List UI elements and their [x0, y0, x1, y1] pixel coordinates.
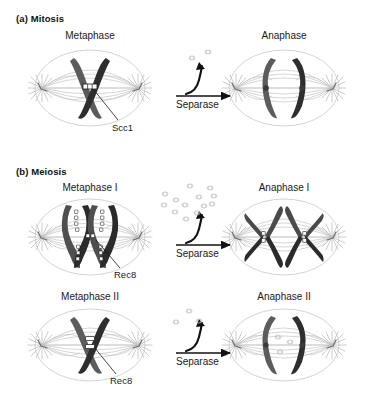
kinetochore-left: [263, 342, 268, 347]
kinetochore-right: [299, 342, 304, 347]
separase-label-meiosis-2: Separase: [176, 356, 219, 367]
section-heading-mitosis: (a) Mitosis: [16, 13, 64, 24]
panel-meiosis-anaphase-2: [222, 309, 346, 381]
panel-title-meiosis-metaphase-2: Metaphase II: [40, 291, 140, 302]
cohesin-fragments-meiosis-2: [173, 309, 202, 324]
cohesin-label-scc1: Scc1: [112, 122, 133, 133]
panel-title-meiosis-anaphase-1: Anaphase I: [234, 182, 334, 193]
cohesin-label-rec8-metaphase2: Rec8: [110, 375, 132, 386]
cohesin-fragments-meiosis-1: [161, 184, 217, 221]
diagram-canvas: [0, 0, 368, 405]
separase-label-meiosis-1: Separase: [176, 248, 219, 259]
panel-meiosis-anaphase-1: [222, 199, 346, 275]
separase-arrow-mitosis: [176, 50, 230, 96]
kinetochore-left: [263, 85, 269, 91]
panel-title-mitosis-metaphase: Metaphase: [40, 30, 140, 41]
panel-meiosis-metaphase-1: [28, 199, 152, 275]
separase-arrow-meiosis-2: [173, 309, 230, 353]
cohesin-fragments-mitosis: [189, 50, 211, 60]
panel-meiosis-metaphase-2: [28, 309, 152, 381]
panel-mitosis-anaphase: [222, 50, 346, 126]
separase-arrow-meiosis-1: [161, 184, 230, 245]
cohesin-scc1-band: [83, 84, 97, 89]
panel-mitosis-metaphase: [28, 50, 152, 126]
kinetochore-right: [299, 85, 305, 91]
section-heading-meiosis: (b) Meiosis: [16, 166, 67, 177]
panel-title-mitosis-anaphase: Anaphase: [234, 30, 334, 41]
separase-label-mitosis: Separase: [176, 99, 219, 110]
cohesin-fragments-anaphase2-interior: [275, 335, 293, 354]
figure-root: (a) Mitosis (b) Meiosis Metaphase Anapha…: [0, 0, 368, 405]
cohesin-label-rec8-metaphase1: Rec8: [114, 269, 136, 280]
panel-title-meiosis-anaphase-2: Anaphase II: [234, 291, 334, 302]
panel-title-meiosis-metaphase-1: Metaphase I: [40, 182, 140, 193]
